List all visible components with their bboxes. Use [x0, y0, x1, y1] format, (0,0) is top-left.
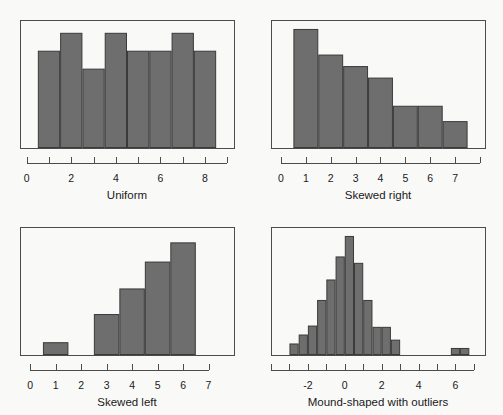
- histogram-bar: [299, 335, 307, 354]
- histogram-bar: [145, 262, 169, 354]
- x-axis-tick-label: 0: [24, 172, 30, 184]
- histogram-bar: [418, 106, 442, 147]
- histogram-bar: [373, 327, 381, 354]
- panel-mound-shaped: -20246Mound-shaped with outliers: [251, 207, 503, 415]
- panel-caption: Uniform: [107, 189, 147, 201]
- bars-group: [290, 236, 469, 354]
- x-axis-ticks: 01234567: [27, 364, 211, 391]
- histogram-bar: [344, 67, 368, 148]
- histogram-bar: [336, 257, 344, 355]
- x-axis-tick-label: 2: [78, 379, 84, 391]
- histogram-bar: [355, 263, 363, 354]
- histogram-bar: [369, 78, 393, 147]
- histogram-bar: [105, 33, 126, 147]
- histogram-bar: [345, 236, 353, 354]
- histogram-bar: [38, 51, 59, 147]
- histogram-bar-outlier: [451, 348, 459, 354]
- histogram-figure: 02468Uniform01234567Skewed right01234567…: [0, 0, 503, 415]
- x-axis-tick-label: 6: [453, 379, 459, 391]
- panel-caption: Mound-shaped with outliers: [308, 396, 449, 408]
- histogram-bar: [94, 315, 118, 355]
- histogram-bar: [308, 326, 316, 354]
- x-axis-tick-label: 3: [104, 379, 110, 391]
- x-axis-tick-label: 4: [378, 172, 384, 184]
- histogram-bar: [319, 55, 343, 147]
- x-axis-tick-label: 5: [402, 172, 408, 184]
- panel-skewed-left: 01234567Skewed left: [0, 207, 252, 415]
- histogram-bar: [294, 29, 318, 147]
- x-axis-tick-label: 7: [206, 379, 212, 391]
- x-axis-tick-label: 0: [278, 172, 284, 184]
- histogram-bar: [391, 340, 399, 354]
- histogram-bar: [194, 51, 215, 147]
- x-axis-tick-label: 1: [303, 172, 309, 184]
- histogram-bar: [120, 289, 144, 355]
- x-axis-tick-label: 6: [427, 172, 433, 184]
- x-axis-tick-label: 2: [379, 379, 385, 391]
- histogram-bar: [171, 243, 195, 355]
- histogram-bar: [327, 280, 335, 355]
- histogram-bar: [83, 69, 104, 147]
- x-axis-ticks: 01234567: [278, 157, 480, 184]
- histogram-bar: [318, 300, 326, 354]
- x-axis-tick-label: 6: [158, 172, 164, 184]
- bars-group: [294, 29, 467, 147]
- histogram-bar: [61, 33, 82, 147]
- x-axis-tick-label: 2: [328, 172, 334, 184]
- panel-caption: Skewed right: [345, 189, 412, 201]
- x-axis-ticks: 02468: [24, 157, 228, 184]
- bars-group: [38, 33, 215, 147]
- histogram-bar: [443, 122, 467, 148]
- x-axis-tick-label: 4: [113, 172, 119, 184]
- x-axis-tick-label: 7: [452, 172, 458, 184]
- x-axis-tick-label: 0: [342, 379, 348, 391]
- panel-uniform: 02468Uniform: [0, 0, 252, 207]
- histogram-bar: [364, 300, 372, 354]
- histogram-bar: [172, 33, 193, 147]
- panel-caption: Skewed left: [97, 396, 157, 408]
- x-axis-tick-label: 6: [180, 379, 186, 391]
- histogram-bar-outlier: [461, 348, 469, 354]
- x-axis-ticks: -20246: [272, 364, 475, 391]
- x-axis-tick-label: 5: [155, 379, 161, 391]
- x-axis-tick-label: 4: [416, 379, 422, 391]
- panel-skewed-right: 01234567Skewed right: [251, 0, 503, 207]
- bars-group: [43, 243, 195, 355]
- x-axis-tick-label: 2: [68, 172, 74, 184]
- histogram-bar: [150, 51, 171, 147]
- x-axis-tick-label: 8: [202, 172, 208, 184]
- x-axis-tick-label: 0: [27, 379, 33, 391]
- histogram-bar: [393, 106, 417, 147]
- x-axis-tick-label: 4: [129, 379, 135, 391]
- x-axis-tick-label: 3: [353, 172, 359, 184]
- histogram-bar: [128, 51, 149, 147]
- histogram-bar: [382, 327, 390, 354]
- x-axis-tick-label: 1: [53, 379, 59, 391]
- x-axis-tick-label: -2: [303, 379, 312, 391]
- histogram-bar: [290, 344, 298, 355]
- histogram-bar: [43, 343, 67, 355]
